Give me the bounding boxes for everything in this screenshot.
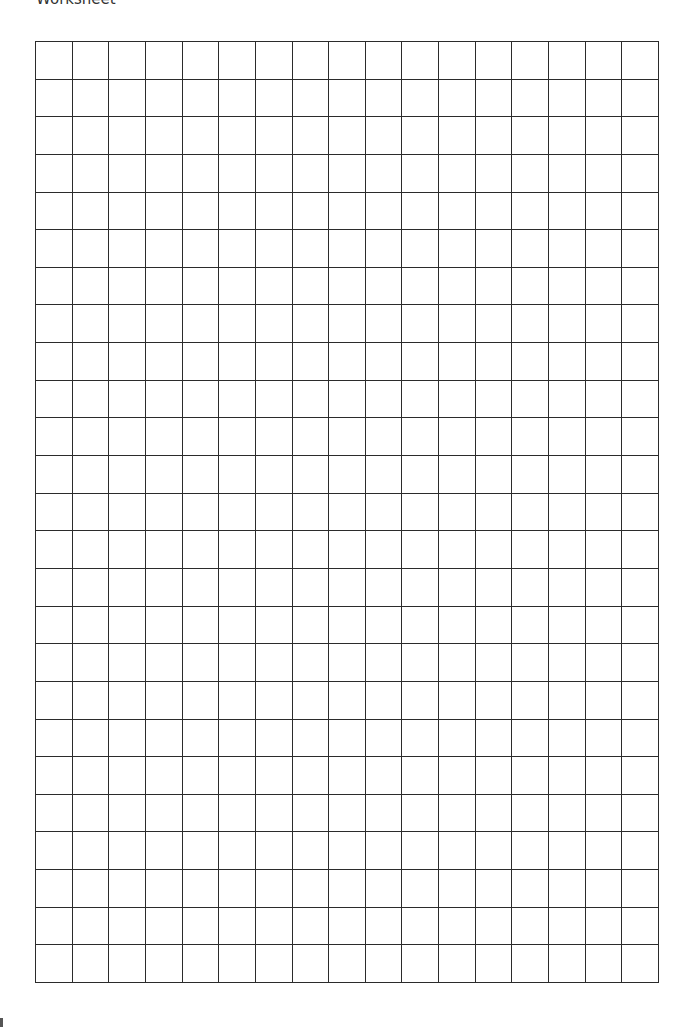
grid-cell [512,456,549,494]
grid-cell [183,155,220,193]
grid-cell [109,305,146,343]
grid-cell [183,607,220,645]
grid-cell [109,193,146,231]
grid-cell [476,607,513,645]
grid-cell [439,569,476,607]
grid-cell [512,268,549,306]
grid-cell [512,870,549,908]
grid-cell [512,908,549,946]
grid-cell [366,305,403,343]
grid-cell [622,268,659,306]
grid-cell [329,268,366,306]
grid-cell [36,757,73,795]
grid-cell [73,80,110,118]
grid-cell [146,795,183,833]
grid-cell [109,945,146,983]
grid-cell [183,908,220,946]
grid-cell [293,795,330,833]
grid-cell [402,456,439,494]
grid-cell [622,343,659,381]
grid-cell [366,42,403,80]
grid-cell [586,682,623,720]
grid-cell [293,117,330,155]
grid-cell [402,418,439,456]
grid-cell [366,908,403,946]
grid-cell [512,193,549,231]
grid-cell [586,945,623,983]
grid-cell [366,343,403,381]
grid-cell [476,531,513,569]
grid-cell [183,456,220,494]
grid-cell [183,644,220,682]
grid-cell [439,418,476,456]
grid-cell [109,644,146,682]
grid-cell [439,795,476,833]
grid-cell [329,418,366,456]
grid-cell [439,343,476,381]
grid-cell [183,230,220,268]
grid-cell [549,494,586,532]
grid-cell [622,418,659,456]
grid-cell [512,720,549,758]
grid-cell [183,268,220,306]
grid-cell [183,418,220,456]
grid-cell [366,193,403,231]
grid-cell [219,870,256,908]
grid-cell [549,268,586,306]
grid-cell [36,720,73,758]
grid-cell [476,720,513,758]
grid-cell [73,908,110,946]
grid-cell [512,305,549,343]
grid-cell [512,795,549,833]
grid-cell [549,42,586,80]
grid-cell [36,418,73,456]
grid-cell [549,870,586,908]
grid-cell [73,230,110,268]
grid-cell [293,607,330,645]
grid-cell [476,268,513,306]
grid-cell [402,870,439,908]
grid-cell [219,456,256,494]
grid-cell [256,757,293,795]
grid-cell [586,757,623,795]
grid-cell [256,682,293,720]
grid-cell [256,494,293,532]
grid-cell [439,381,476,419]
grid-cell [73,456,110,494]
grid-cell [256,795,293,833]
grid-cell [366,795,403,833]
grid-cell [183,720,220,758]
grid-cell [256,343,293,381]
grid-cell [622,644,659,682]
grid-cell [622,155,659,193]
grid-cell [329,80,366,118]
grid-cell [293,230,330,268]
grid-cell [146,682,183,720]
grid-cell [183,494,220,532]
grid-cell [402,230,439,268]
grid-cell [73,155,110,193]
grid-cell [329,832,366,870]
grid-cell [586,456,623,494]
grid-cell [36,832,73,870]
grid-cell [293,908,330,946]
grid-cell [109,607,146,645]
grid-cell [256,870,293,908]
grid-cell [476,381,513,419]
grid-cell [329,155,366,193]
grid-cell [36,569,73,607]
grid-cell [549,569,586,607]
grid-cell [439,720,476,758]
grid-cell [293,494,330,532]
grid-cell [476,193,513,231]
grid-cell [146,832,183,870]
grid-cell [256,569,293,607]
grid-cell [256,456,293,494]
grid-cell [439,456,476,494]
grid-cell [549,117,586,155]
grid-cell [73,607,110,645]
grid-cell [36,381,73,419]
grid-cell [402,795,439,833]
grid-cell [219,720,256,758]
grid-cell [512,757,549,795]
